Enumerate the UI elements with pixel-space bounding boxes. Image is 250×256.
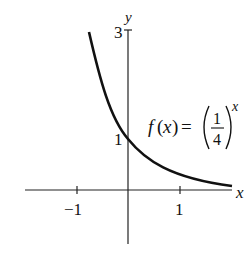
big-paren-left	[204, 106, 209, 149]
y-axis-label: y	[123, 9, 132, 25]
y-tick-label-3: 3	[114, 23, 123, 42]
exponential-graph: x y 3 1 −1 1 f ( x ) = 1 4 x	[0, 0, 250, 256]
function-var: x	[162, 116, 172, 137]
x-tick-label-neg-1: −1	[64, 200, 82, 219]
y-tick-label-1: 1	[114, 130, 123, 149]
function-equals: =	[181, 116, 192, 137]
function-f: f	[148, 116, 156, 137]
fraction-numerator: 1	[213, 110, 221, 127]
big-paren-right	[226, 106, 231, 149]
function-paren-close: )	[172, 116, 178, 138]
fraction-denominator: 4	[213, 131, 221, 148]
function-label: f ( x ) = 1 4 x	[148, 99, 239, 149]
exponent: x	[231, 99, 239, 114]
x-tick-label-1: 1	[175, 200, 184, 219]
x-axis-label: x	[235, 183, 244, 202]
function-curve	[89, 32, 232, 186]
